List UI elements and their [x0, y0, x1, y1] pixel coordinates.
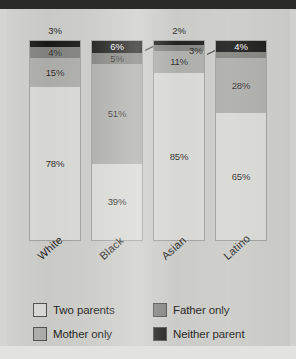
legend-label: Mother only: [53, 328, 112, 340]
legend-label: Two parents: [53, 304, 115, 316]
segment-value-callout: 3%: [189, 45, 203, 56]
chart-legend: Two parentsFather onlyMother onlyNeither…: [33, 299, 273, 345]
page-left-margin: [0, 9, 7, 346]
legend-swatch-icon: [153, 303, 167, 317]
bar-segment-white-father-only: 4%: [30, 47, 80, 58]
bar-segment-black-father-only: 5%: [92, 53, 142, 64]
segment-value-label: 78%: [46, 158, 64, 169]
segment-value-label: 4%: [48, 47, 61, 58]
bar-segment-black-two-parents: 39%: [92, 164, 142, 240]
segment-value-label: 51%: [108, 108, 126, 119]
segment-value-label-above: 3%: [29, 25, 81, 36]
legend-swatch-icon: [33, 303, 47, 317]
segment-value-label: 65%: [232, 171, 250, 182]
bar-segment-white-mother-only: 15%: [30, 58, 80, 87]
page-right-margin: [290, 9, 296, 346]
legend-swatch-icon: [33, 327, 47, 341]
bar-segment-latino-two-parents: 65%: [216, 113, 266, 240]
legend-item-mother-only[interactable]: Mother only: [33, 323, 145, 345]
legend-label: Neither parent: [173, 328, 244, 340]
segment-value-label: 6%: [110, 41, 123, 52]
page-bottom-margin: [0, 346, 296, 359]
legend-label: Father only: [173, 304, 229, 316]
legend-item-two-parents[interactable]: Two parents: [33, 299, 145, 321]
stacked-bar-chart-figure: 4%15%78%3%6%5%51%39%11%85%2%3%4%28%65%3%…: [0, 0, 296, 359]
legend-swatch-icon: [153, 327, 167, 341]
legend-item-father-only[interactable]: Father only: [153, 299, 273, 321]
segment-value-label: 5%: [110, 53, 123, 64]
segment-value-label: 4%: [234, 41, 247, 52]
segment-value-label: 15%: [46, 67, 64, 78]
segment-value-callout: 3%: [127, 41, 141, 52]
bar-segment-latino-mother-only: 28%: [216, 58, 266, 113]
segment-value-label: 85%: [170, 151, 188, 162]
segment-value-label: 11%: [170, 56, 188, 67]
segment-value-label: 28%: [232, 80, 250, 91]
bar-segment-latino-neither-parent: 4%: [216, 41, 266, 52]
bar-white: 4%15%78%: [29, 40, 81, 241]
bar-black: 6%5%51%39%: [91, 40, 143, 241]
plot-area: 4%15%78%3%6%5%51%39%11%85%2%3%4%28%65%3%: [7, 9, 290, 241]
bar-asian: 11%85%: [153, 40, 205, 241]
bar-segment-black-mother-only: 51%: [92, 64, 142, 164]
bar-segment-asian-two-parents: 85%: [154, 73, 204, 240]
bar-segment-white-two-parents: 78%: [30, 87, 80, 240]
segment-value-label: 39%: [108, 196, 126, 207]
legend-item-neither-parent[interactable]: Neither parent: [153, 323, 273, 345]
page-top-band: [0, 0, 296, 9]
segment-value-label-above: 2%: [153, 25, 205, 36]
bar-latino: 4%28%65%: [215, 40, 267, 241]
chart-panel: 4%15%78%3%6%5%51%39%11%85%2%3%4%28%65%3%…: [7, 9, 290, 346]
